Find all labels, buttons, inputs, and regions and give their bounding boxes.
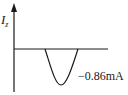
current-pulse-curve xyxy=(45,49,78,85)
y-axis-label: Iz xyxy=(1,12,8,29)
y-axis-arrow-icon xyxy=(11,3,17,12)
y-axis-label-subscript: z xyxy=(5,20,8,29)
minimum-value-label: −0.86mA xyxy=(78,69,124,84)
